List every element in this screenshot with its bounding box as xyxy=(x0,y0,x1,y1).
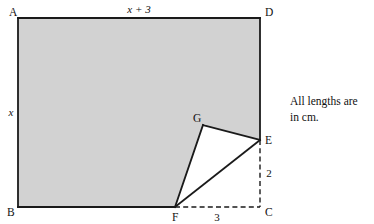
caption-line-1: All lengths are xyxy=(290,95,358,108)
shaded-region xyxy=(18,18,260,207)
geometry-figure: ADBCEFG x + 3x23 All lengths are in cm. xyxy=(0,0,374,224)
figure-canvas: ADBCEFG x + 3x23 All lengths are in cm. xyxy=(0,0,374,224)
caption-line-2: in cm. xyxy=(290,111,319,123)
vertex-label-g: G xyxy=(193,112,201,124)
vertex-label-f: F xyxy=(172,211,178,223)
dimension-label-right-segment: 2 xyxy=(266,167,272,179)
vertex-label-b: B xyxy=(7,206,15,218)
vertex-label-d: D xyxy=(265,6,273,18)
dimension-label-left-height: x xyxy=(8,106,14,118)
vertex-label-a: A xyxy=(9,6,18,18)
dimension-label-top-length: x + 3 xyxy=(126,3,151,15)
dimension-label-bottom-segment: 3 xyxy=(214,211,220,223)
vertex-label-c: C xyxy=(265,206,273,218)
vertex-label-e: E xyxy=(265,134,272,146)
